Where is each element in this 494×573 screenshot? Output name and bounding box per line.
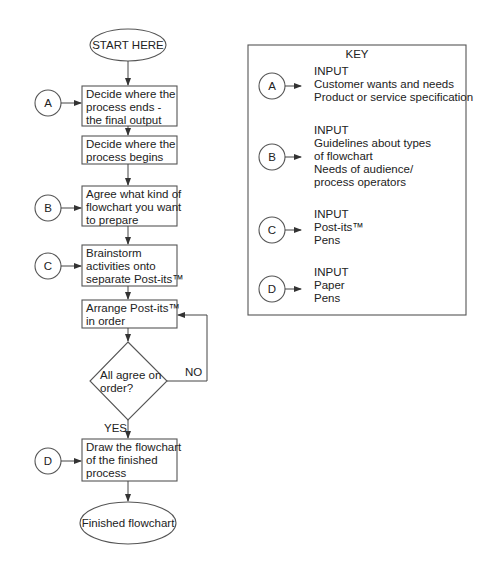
step-4-line-2: activities onto (86, 260, 156, 272)
svg-text:Paper: Paper (314, 279, 345, 291)
svg-text:C: C (268, 224, 276, 236)
svg-text:Post-its™: Post-its™ (314, 221, 364, 233)
input-marker-c: C (35, 253, 81, 279)
process-step-1: Decide where the process ends - the fina… (82, 86, 177, 126)
svg-text:D: D (268, 283, 276, 295)
decision-diamond: All agree on order? (90, 342, 167, 420)
svg-text:of flowchart: of flowchart (314, 150, 374, 162)
input-marker-b: B (35, 195, 81, 221)
key-title: KEY (345, 48, 368, 60)
process-step-3: Agree what kind of flowchart you want to… (82, 186, 182, 226)
step-1-line-1: Decide where the (86, 88, 176, 100)
svg-text:INPUT: INPUT (314, 266, 349, 278)
final-step-line-3: process (86, 467, 127, 479)
svg-text:C: C (44, 260, 52, 272)
final-step-line-1: Draw the flowchart (86, 441, 182, 453)
svg-text:Needs of audience/: Needs of audience/ (314, 163, 414, 175)
svg-text:process operators: process operators (314, 176, 406, 188)
svg-text:A: A (44, 97, 52, 109)
process-step-final: Draw the flowchart of the finished proce… (82, 439, 182, 481)
input-marker-a: A (35, 90, 81, 116)
svg-text:INPUT: INPUT (314, 124, 349, 136)
end-label: Finished flowchart (82, 517, 175, 529)
svg-text:Pens: Pens (314, 292, 340, 304)
step-5-line-2: in order (86, 315, 125, 327)
svg-text:A: A (268, 80, 276, 92)
process-step-2: Decide where the process begins (82, 136, 177, 164)
svg-text:INPUT: INPUT (314, 65, 349, 77)
svg-text:B: B (268, 151, 276, 163)
decision-line-2: order? (100, 382, 133, 394)
key-legend: KEY A INPUT Customer wants and needs Pro… (248, 45, 473, 315)
final-step-line-2: of the finished (86, 454, 158, 466)
process-step-5: Arrange Post-its™ in order (82, 300, 180, 328)
decision-line-1: All agree on (100, 369, 161, 381)
svg-text:Pens: Pens (314, 234, 340, 246)
svg-text:INPUT: INPUT (314, 208, 349, 220)
step-1-line-2: process ends - (86, 101, 162, 113)
step-2-line-1: Decide where the (86, 138, 176, 150)
end-terminator: Finished flowchart (80, 502, 176, 544)
no-label: NO (185, 366, 202, 378)
svg-text:Customer wants and needs: Customer wants and needs (314, 78, 454, 90)
step-2-line-2: process begins (86, 151, 164, 163)
start-label: START HERE (92, 39, 164, 51)
step-3-line-2: flowchart you want (86, 201, 182, 213)
step-4-line-1: Brainstorm (86, 247, 142, 259)
step-4-line-3: separate Post-its™ (86, 273, 184, 285)
svg-text:D: D (44, 455, 52, 467)
process-step-4: Brainstorm activities onto separate Post… (82, 245, 184, 286)
step-1-line-3: the final output (86, 114, 162, 126)
flowchart-diagram: START HERE Decide where the process ends… (0, 0, 494, 573)
step-3-line-1: Agree what kind of (86, 188, 182, 200)
svg-text:Product or service specificati: Product or service specification (314, 91, 473, 103)
yes-label: YES (104, 422, 127, 434)
svg-text:B: B (44, 202, 52, 214)
step-3-line-3: to prepare (86, 214, 138, 226)
svg-text:Guidelines about types: Guidelines about types (314, 137, 431, 149)
start-terminator: START HERE (90, 29, 166, 61)
input-marker-d: D (35, 448, 81, 474)
step-5-line-1: Arrange Post-its™ (86, 302, 180, 314)
